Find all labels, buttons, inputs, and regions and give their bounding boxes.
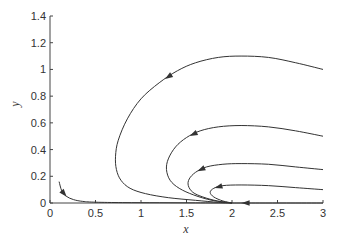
y-axis-label: y	[8, 101, 22, 108]
x-tick-label: 3	[320, 207, 326, 219]
y-tick-label: 1.4	[31, 10, 46, 22]
trajectory-2-arrow	[189, 130, 199, 139]
trajectory-3-arrow	[196, 165, 206, 174]
x-tick-label: 2	[229, 207, 235, 219]
trajectory-4-arrow	[214, 183, 223, 191]
trajectory-6-line	[59, 182, 232, 203]
trajectory-4-line	[210, 185, 323, 203]
x-tick-label: 0.5	[88, 207, 103, 219]
trajectories	[59, 56, 323, 206]
y-tick-label: 0.2	[31, 170, 46, 182]
trajectory-5-arrow	[242, 200, 250, 206]
trajectory-1-line	[115, 56, 323, 203]
y-tick-label: 0	[40, 197, 46, 209]
y-tick-label: 1.2	[31, 37, 46, 49]
y-tick-label: 0.8	[31, 90, 46, 102]
y-tick-label: 0.6	[31, 117, 46, 129]
phase-portrait-chart: 00.511.522.5300.20.40.60.811.21.4 x y	[0, 0, 342, 243]
x-axis-label: x	[182, 222, 189, 236]
x-tick-label: 1.5	[179, 207, 194, 219]
y-tick-label: 1	[40, 63, 46, 75]
trajectory-3-line	[188, 164, 323, 203]
y-tick-label: 0.4	[31, 144, 46, 156]
trajectory-2-line	[166, 126, 323, 203]
x-tick-label: 0	[47, 207, 53, 219]
x-tick-label: 1	[138, 207, 144, 219]
x-tick-label: 2.5	[270, 207, 285, 219]
